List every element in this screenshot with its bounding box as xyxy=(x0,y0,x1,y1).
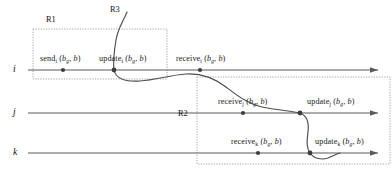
region-box-r2 xyxy=(197,77,390,164)
event-label-send-i: sendi (bg, b) xyxy=(40,55,81,63)
event-subscript-update-k: k xyxy=(337,141,340,147)
diagram-canvas: i j k R1 R2 R3 sendi (bg, b) updatei (bg… xyxy=(0,0,392,171)
region-label-r3: R3 xyxy=(110,6,120,14)
process-label-k: k xyxy=(13,148,17,158)
event-arg1sub-receive-j: g xyxy=(253,101,256,107)
event-arg1sub-send-i: g xyxy=(66,58,69,64)
event-dot-update-i xyxy=(112,68,117,73)
region-label-r2: R2 xyxy=(178,110,188,118)
event-subscript-receive-i: i xyxy=(200,58,202,64)
event-dot-receive-i xyxy=(198,68,202,72)
event-arg2-update-j: b xyxy=(347,97,351,106)
process-arrow-j xyxy=(370,110,378,116)
event-label-receive-j: receivej (bg, b) xyxy=(218,98,267,106)
event-arg2-update-k: b xyxy=(357,137,361,146)
event-arg2-receive-i: b xyxy=(218,54,222,63)
process-arrow-k xyxy=(370,150,378,156)
event-label-update-i: updatei (bg, b) xyxy=(99,55,147,63)
event-name-update-j: update xyxy=(307,97,329,106)
event-arg2-send-i: b xyxy=(73,54,77,63)
event-subscript-update-i: i xyxy=(121,58,123,64)
event-subscript-update-j: j xyxy=(329,101,331,107)
event-subscript-receive-k: k xyxy=(255,141,258,147)
event-name-receive-i: receive xyxy=(176,54,200,63)
cut-curve-r3 xyxy=(114,12,340,159)
event-arg1sub-receive-k: g xyxy=(267,141,270,147)
event-arg2-receive-k: b xyxy=(275,137,279,146)
event-name-receive-j: receive xyxy=(218,97,242,106)
event-arg2-receive-j: b xyxy=(260,97,264,106)
process-label-i: i xyxy=(13,65,16,75)
event-label-receive-i: receivei (bg, b) xyxy=(176,55,225,63)
event-label-receive-k: receivek (bg, b) xyxy=(231,138,282,146)
event-label-update-k: updatek (bg, b) xyxy=(315,138,364,146)
event-arg1sub-update-i: g xyxy=(132,58,135,64)
region-label-r1: R1 xyxy=(46,16,56,24)
event-name-update-k: update xyxy=(315,137,337,146)
event-dot-send-i xyxy=(61,68,65,72)
event-dot-receive-j xyxy=(241,111,245,115)
process-label-j: j xyxy=(13,108,16,118)
event-arg1sub-update-j: g xyxy=(340,101,343,107)
event-arg1sub-receive-i: g xyxy=(211,58,214,64)
event-arg1-update-k: b xyxy=(345,137,349,146)
event-subscript-send-i: i xyxy=(55,58,57,64)
event-arg2-update-i: b xyxy=(139,54,143,63)
event-name-send-i: send xyxy=(40,54,55,63)
event-label-update-j: updatej (bg, b) xyxy=(307,98,355,106)
event-dot-receive-k xyxy=(256,151,260,155)
event-name-receive-k: receive xyxy=(231,137,255,146)
event-dot-update-k xyxy=(308,151,313,156)
process-arrow-i xyxy=(370,67,378,73)
event-name-update-i: update xyxy=(99,54,121,63)
event-arg1sub-update-k: g xyxy=(350,141,353,147)
event-subscript-receive-j: j xyxy=(242,101,244,107)
event-dot-update-j xyxy=(298,111,303,116)
